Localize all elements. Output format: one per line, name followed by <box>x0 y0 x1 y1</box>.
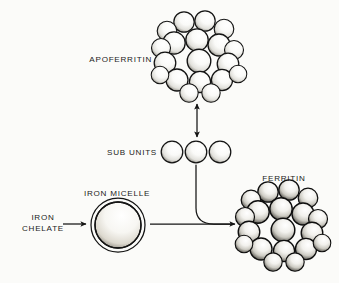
ferritin-label: FERRITIN <box>262 174 305 183</box>
sub-units-sphere-row <box>161 141 231 163</box>
sub-units-label: SUB UNITS <box>107 148 157 157</box>
diagram-canvas: APOFERRITIN SUB UNITS IRON MICELLE IRON … <box>0 0 339 283</box>
ferritin-diagram: APOFERRITIN SUB UNITS IRON MICELLE IRON … <box>0 0 339 283</box>
iron-chelate-label-line2: CHELATE <box>22 224 64 233</box>
iron-micelle-label: IRON MICELLE <box>84 189 150 198</box>
apoferritin-label: APOFERRITIN <box>89 55 152 64</box>
iron-chelate-label-line1: IRON <box>31 213 54 222</box>
